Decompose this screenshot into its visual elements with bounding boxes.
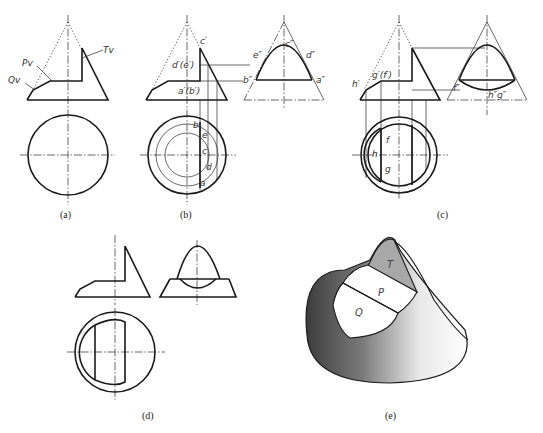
label-T: T [387, 259, 394, 270]
panel-b: c′ d′(e′) a′(b′) c″ e″ d″ b″ a″ b e c d … [140, 15, 326, 221]
label-h-front: h′ [352, 79, 360, 89]
label-de-front: d′(e′) [172, 60, 194, 70]
label-gf-front: g′(f′) [372, 70, 392, 80]
panel-d: (d) [67, 235, 236, 422]
label-c-front: c′ [200, 36, 207, 46]
front-view-a [25, 15, 108, 110]
label-hg-side: h″g″ [488, 90, 507, 100]
label-Pv: Pv [22, 58, 33, 68]
front-view-d [75, 235, 150, 305]
label-a-top: a [200, 178, 206, 188]
front-view-b [146, 15, 250, 190]
label-b-top: b [193, 120, 199, 130]
label-a-side: a″ [316, 75, 326, 85]
panel-c: h′ g′(f′) f″ h″g″ f h g (c) [352, 15, 527, 221]
label-P: P [378, 287, 385, 298]
panel-e-isometric-view: T P Q (e) [306, 238, 468, 423]
label-Qv: Qv [8, 75, 21, 85]
caption-d: (d) [142, 410, 154, 422]
side-view-d [160, 240, 236, 305]
label-c-top: c [202, 146, 207, 156]
side-view-c [447, 15, 527, 115]
label-f-top: f [386, 135, 391, 145]
label-Q: Q [355, 307, 363, 318]
label-d-side: d″ [306, 50, 316, 60]
truncated-cone-section-figure: Pv Qv Tv (a) c′ d′(e′) a′(b′) [0, 0, 543, 433]
top-view-b [140, 110, 236, 205]
caption-b: (b) [180, 209, 192, 221]
label-f-side: f″ [453, 83, 460, 93]
top-view-c [352, 117, 448, 193]
caption-e: (e) [385, 410, 396, 422]
caption-c: (c) [437, 209, 448, 221]
caption-a: (a) [60, 209, 71, 221]
side-view-b [244, 15, 324, 108]
front-view-c [360, 15, 485, 200]
label-d-top: d [206, 162, 212, 172]
panel-a: Pv Qv Tv (a) [8, 15, 115, 221]
label-e-side: e″ [253, 50, 263, 60]
label-Tv: Tv [103, 45, 114, 55]
label-c-side: c″ [285, 39, 294, 49]
label-b-side: b″ [243, 75, 253, 85]
top-view-a [20, 110, 115, 205]
label-g-top: g [385, 164, 391, 174]
label-e-top: e [202, 130, 208, 140]
top-view-d [67, 308, 165, 400]
label-ab-front: a′(b′) [178, 86, 200, 96]
label-h-top: h [372, 149, 378, 159]
